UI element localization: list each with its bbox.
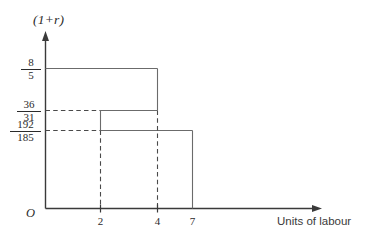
y-tick-label-192-185: 192 185	[10, 119, 41, 143]
axes-group	[42, 31, 322, 212]
figure-canvas: (1+r) O 8 5 36 31 192 185 2 4 7 Units of…	[0, 0, 379, 246]
y-axis-arrow-icon	[42, 31, 49, 41]
dashed-guides-group	[46, 111, 158, 209]
y-tick-192-185-denominator: 185	[10, 131, 41, 144]
step-function-path	[46, 69, 193, 209]
x-tick-label-2: 2	[94, 216, 107, 227]
x-tick-label-4: 4	[151, 216, 164, 227]
origin-label: O	[26, 207, 35, 220]
y-tick-36-31-numerator: 36	[17, 99, 41, 111]
step-function-chart	[0, 0, 379, 246]
x-axis-title: Units of labour	[277, 216, 351, 228]
x-axis-arrow-icon	[312, 205, 322, 212]
x-tick-label-7: 7	[186, 216, 199, 227]
y-tick-label-8-5: 8 5	[21, 57, 41, 81]
y-axis-title: (1+r)	[33, 13, 64, 27]
y-tick-8-5-numerator: 8	[21, 57, 41, 69]
y-tick-8-5-denominator: 5	[21, 69, 41, 82]
y-tick-192-185-numerator: 192	[10, 119, 41, 131]
